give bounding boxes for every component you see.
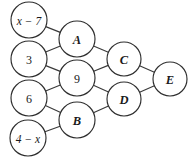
node-nE[interactable]: E: [153, 62, 187, 96]
edge-n3-to-n9: [46, 85, 61, 91]
node-label-nD: D: [118, 93, 128, 107]
node-nC[interactable]: C: [107, 42, 141, 76]
node-label-nE: E: [165, 73, 174, 87]
node-label-nB: B: [72, 114, 81, 128]
node-label-nA: A: [72, 33, 81, 47]
edge-n1-to-nA: [46, 27, 61, 33]
node-n1[interactable]: x − 7: [11, 2, 47, 38]
node-nB[interactable]: B: [59, 102, 95, 138]
edge-n9-to-nD: [93, 85, 108, 92]
node-layer: x − 7364 − xA9BCDE: [10, 2, 187, 156]
node-label-n3: 6: [26, 92, 32, 106]
node-nA[interactable]: A: [59, 21, 95, 57]
edge-nC-to-nE: [140, 66, 155, 72]
edge-nA-to-nC: [94, 46, 109, 52]
node-n4[interactable]: 4 − x: [10, 120, 46, 156]
edge-n2-to-n9: [46, 66, 61, 72]
network-graph: x − 7364 − xA9BCDE: [0, 0, 191, 165]
node-label-n9: 9: [74, 72, 80, 86]
edge-nD-to-nE: [140, 86, 155, 92]
edge-n4-to-nB: [45, 126, 60, 132]
edge-nB-to-nD: [93, 106, 108, 113]
diagram-canvas: x − 7364 − xA9BCDE: [0, 0, 191, 165]
node-n3[interactable]: 6: [11, 80, 47, 116]
edge-n2-to-nA: [46, 46, 61, 52]
node-n9[interactable]: 9: [59, 60, 95, 96]
edge-n9-to-nC: [94, 65, 109, 71]
node-label-nC: C: [120, 53, 129, 67]
node-nD[interactable]: D: [107, 82, 141, 116]
node-n2[interactable]: 3: [11, 41, 47, 77]
edge-n3-to-nB: [45, 106, 60, 113]
node-label-n1: x − 7: [16, 15, 43, 27]
node-label-n2: 3: [26, 53, 32, 67]
node-label-n4: 4 − x: [16, 133, 41, 145]
